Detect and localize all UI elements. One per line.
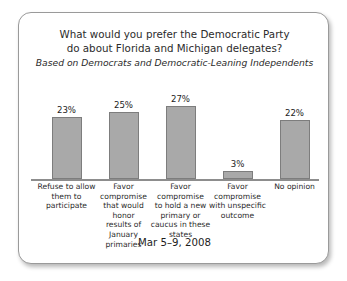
category-label: Refuse to allowthem toparticipate <box>36 182 97 211</box>
category-label: No opinion <box>264 182 325 192</box>
category-label-line: them to <box>36 192 97 202</box>
footer-date: Mar 5–9, 2008 <box>19 237 330 248</box>
bar[interactable] <box>52 117 82 179</box>
bar-chart-plot: 23%25%27%3%22% Refuse to allowthem topar… <box>19 13 330 265</box>
bar[interactable] <box>223 171 253 179</box>
category-label-line: Favor <box>207 182 268 192</box>
category-label-line: compromise <box>207 192 268 202</box>
bar-group: 22% <box>266 13 323 265</box>
category-label-line: No opinion <box>264 182 325 192</box>
bar-value-label: 22% <box>266 108 323 118</box>
bar-value-label: 23% <box>38 105 95 115</box>
bar-value-label: 27% <box>152 94 209 104</box>
category-label-line: to hold a new <box>150 201 211 211</box>
bar[interactable] <box>109 112 139 180</box>
category-label-line: compromise <box>150 192 211 202</box>
bar-group: 23% <box>38 13 95 265</box>
bar-value-label: 25% <box>95 100 152 110</box>
category-label-line: with unspecific <box>207 201 268 211</box>
category-label-line: that would honor <box>93 201 154 220</box>
category-label-line: Favor <box>93 182 154 192</box>
category-label-line: caucus in these <box>150 220 211 230</box>
chart-card: What would you prefer the Democratic Par… <box>18 12 329 264</box>
bar-group: 3% <box>209 13 266 265</box>
category-label-line: participate <box>36 201 97 211</box>
category-label-line: compromise <box>93 192 154 202</box>
category-label: Favorcompromisewith unspecificoutcome <box>207 182 268 220</box>
category-label-line: primary or <box>150 211 211 221</box>
category-label: Favorcompromiseto hold a newprimary orca… <box>150 182 211 240</box>
bar[interactable] <box>166 106 196 179</box>
category-label-line: Favor <box>150 182 211 192</box>
category-label-line: outcome <box>207 211 268 221</box>
bar-value-label: 3% <box>209 159 266 169</box>
bar[interactable] <box>280 120 310 179</box>
category-label-line: Refuse to allow <box>36 182 97 192</box>
